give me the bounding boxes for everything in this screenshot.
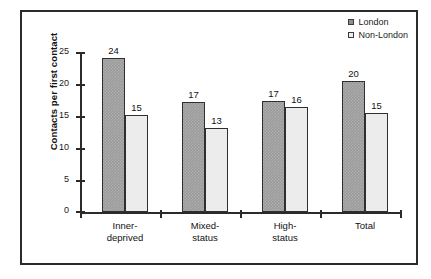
bar-value-london-mixed-status: 17 (188, 89, 199, 100)
x-category-line-2: status (272, 232, 297, 244)
bar-non-london-high-status: 16 (285, 107, 308, 212)
bar-non-london-total: 15 (365, 113, 388, 212)
y-tick-label-0: 0 (64, 205, 69, 215)
x-category-line-1: High- (272, 220, 297, 232)
bar-non-london-mixed-status: 13 (205, 128, 228, 212)
x-category-line-1: Mixed- (191, 220, 220, 232)
bar-value-non-london-high-status: 16 (291, 94, 302, 105)
bar-non-london-inner-deprived: 15 (125, 115, 148, 212)
x-tick-start (80, 210, 82, 218)
bar-value-london-total: 20 (348, 68, 359, 79)
y-tick-20: 20 (76, 84, 85, 86)
legend-label-london: London (358, 17, 388, 27)
bar-london-mixed-status: 17 (182, 102, 205, 212)
x-category-label-inner-deprived: Inner- deprived (107, 220, 143, 243)
legend-label-non-london: Non-London (358, 30, 408, 40)
x-category-label-mixed-status: Mixed- status (191, 220, 220, 243)
legend-swatch-non-london-icon (348, 32, 354, 38)
x-tick-end (400, 210, 402, 218)
y-tick-label-25: 25 (59, 46, 69, 56)
y-tick-10: 10 (76, 148, 85, 150)
bar-london-high-status: 17 (262, 101, 285, 212)
x-category-line-2: status (191, 232, 220, 244)
y-tick-label-10: 10 (59, 142, 69, 152)
bar-value-london-inner-deprived: 24 (108, 45, 119, 56)
plot-area: 25 20 15 10 5 0 24 15 17 (80, 52, 402, 212)
bar-value-non-london-mixed-status: 13 (211, 115, 222, 126)
bar-london-total: 20 (342, 81, 365, 212)
y-axis-line (80, 52, 82, 213)
y-axis-title: Contacts per first contact (48, 12, 59, 172)
legend-item-non-london: Non-London (348, 29, 408, 40)
y-tick-15: 15 (76, 116, 85, 118)
bar-value-non-london-inner-deprived: 15 (131, 102, 142, 113)
bar-value-non-london-total: 15 (371, 100, 382, 111)
x-category-line-1: Inner- (107, 220, 143, 232)
bar-value-london-high-status: 17 (268, 88, 279, 99)
bar-london-inner-deprived: 24 (102, 58, 125, 212)
x-tick-1 (160, 210, 162, 218)
y-tick-25: 25 (76, 52, 85, 54)
x-category-label-high-status: High- status (272, 220, 297, 243)
y-tick-5: 5 (76, 180, 85, 182)
y-tick-label-20: 20 (59, 78, 69, 88)
y-tick-label-5: 5 (64, 174, 69, 184)
y-tick-label-15: 15 (59, 110, 69, 120)
x-tick-3 (320, 210, 322, 218)
x-category-line-1: Total (355, 220, 375, 232)
x-category-line-2: deprived (107, 232, 143, 244)
chart-legend: London Non-London (348, 16, 408, 40)
x-category-label-total: Total (355, 220, 375, 232)
chart-figure-frame: London Non-London Contacts per first con… (20, 10, 418, 265)
legend-item-london: London (348, 16, 408, 27)
x-tick-2 (240, 210, 242, 218)
legend-swatch-london-icon (348, 19, 354, 25)
